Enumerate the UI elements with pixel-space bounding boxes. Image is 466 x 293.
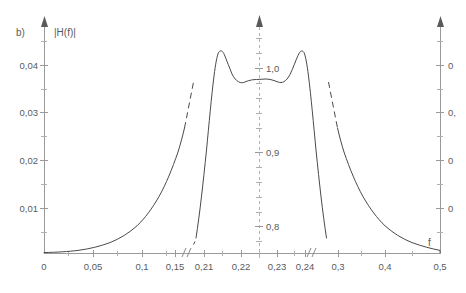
response-curves	[44, 51, 440, 253]
x-tick-label: 0	[41, 261, 46, 272]
panel-label: b)	[16, 27, 25, 38]
right-y-tick-label: 0	[448, 155, 453, 166]
curve-passband	[196, 51, 327, 238]
center-y-axis: 1,0 0,9 0,8	[255, 15, 279, 258]
right-y-axis: 0 0, 0 0	[436, 16, 456, 254]
right-y-axis-arrowhead	[437, 16, 444, 27]
right-y-tick-label: 0	[448, 60, 453, 71]
x-tick-label: 0,15	[166, 261, 185, 272]
x-tick-label: 0,05	[84, 261, 103, 272]
left-y-tick-label: 0,03	[20, 107, 39, 118]
y-axis-title: |H(f)|	[54, 27, 76, 38]
left-y-tick-label: 0,04	[20, 60, 39, 71]
curve-stopband-lower-break	[185, 82, 194, 128]
axis-break-mark-right	[307, 248, 316, 257]
x-tick-label: 0,23	[268, 261, 287, 272]
x-tick-label: 0,1	[135, 261, 148, 272]
left-y-tick-label: 0,01	[20, 203, 39, 214]
center-y-tick-label: 1,0	[266, 63, 279, 74]
x-axis-title: f	[428, 237, 431, 248]
x-tick-label: 0,5	[433, 261, 446, 272]
x-tick-label: 0,24	[296, 261, 315, 272]
left-y-axis-arrowhead	[41, 16, 48, 27]
x-axis: 0 0,05 0,1 0,15 0,21 0,22 0,23 0,24 0,3 …	[41, 237, 446, 272]
center-y-tick-label: 0,9	[266, 147, 279, 158]
x-tick-label: 0,4	[378, 261, 391, 272]
center-y-tick-label: 0,8	[266, 221, 279, 232]
curve-passband-left-break	[194, 242, 196, 245]
center-y-axis-arrowhead	[256, 15, 263, 27]
left-y-tick-label: 0,02	[20, 155, 39, 166]
left-y-axis: 0,04 0,03 0,02 0,01 |H(f)|	[20, 16, 76, 254]
x-tick-label: 0,3	[331, 261, 344, 272]
curve-stopband-upper-break	[329, 82, 338, 128]
magnitude-response-plot: 0,04 0,03 0,02 0,01 |H(f)| b)	[0, 0, 466, 293]
x-tick-label: 0,21	[195, 261, 214, 272]
curve-stopband-lower	[44, 128, 185, 253]
curve-stopband-upper	[338, 128, 441, 253]
axis-break-mark-left	[182, 248, 191, 257]
right-y-tick-label: 0,	[448, 107, 456, 118]
x-tick-label: 0,22	[232, 261, 251, 272]
figure-container: 0,04 0,03 0,02 0,01 |H(f)| b)	[0, 0, 466, 293]
right-y-tick-label: 0	[448, 203, 453, 214]
